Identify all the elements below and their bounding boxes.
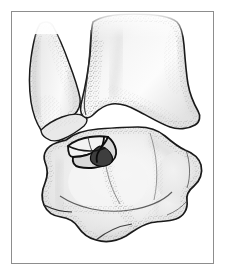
- osteochondral-fracture-fragment: [68, 136, 116, 168]
- ankle-illustration-canvas: Ankle joint osteochondral lesion illustr…: [0, 0, 226, 279]
- anatomical-figure: Ankle joint osteochondral lesion illustr…: [0, 0, 226, 279]
